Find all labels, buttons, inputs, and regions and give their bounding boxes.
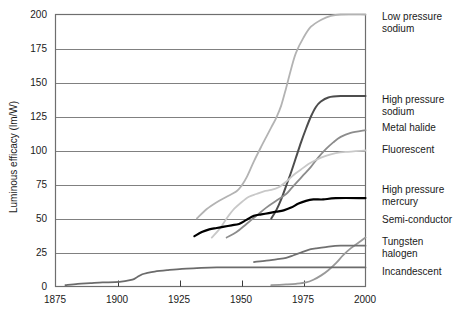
series-label-high-pressure-sodium-2: sodium: [382, 106, 414, 117]
luminous-efficacy-chart: Luminous efficacy (lm/W) 200 175 150 125…: [0, 0, 470, 316]
y-tick-label: 100: [30, 145, 47, 156]
x-tick-label: 1925: [168, 294, 191, 305]
series-label-metal-halide: Metal halide: [382, 122, 436, 133]
series-label-high-pressure-mercury: High pressure: [382, 184, 445, 195]
x-tick-label: 1975: [292, 294, 315, 305]
series-label-low-pressure-sodium-2: sodium: [382, 23, 414, 34]
x-tick-label: 1875: [44, 294, 67, 305]
y-tick-label: 125: [30, 111, 47, 122]
y-axis-title: Luminous efficacy (lm/W): [8, 101, 19, 213]
series-label-low-pressure-sodium: Low pressure: [382, 11, 442, 22]
series-label-fluorescent: Fluorescent: [382, 144, 434, 155]
series-label-incandescent: Incandescent: [382, 266, 442, 277]
series-label-semi-conductor: Semi-conductor: [382, 214, 453, 225]
y-tick-label: 0: [41, 281, 47, 292]
x-tick-label: 1950: [230, 294, 253, 305]
series-label-high-pressure-sodium: High pressure: [382, 94, 445, 105]
y-tick-label: 25: [36, 247, 48, 258]
x-tick-label: 2000: [354, 294, 377, 305]
y-tick-label: 175: [30, 43, 47, 54]
y-tick-label: 75: [36, 179, 48, 190]
y-tick-label: 200: [30, 9, 47, 20]
y-tick-label: 50: [36, 213, 48, 224]
x-tick-label: 1900: [106, 294, 129, 305]
series-label-tungsten-halogen-2: halogen: [382, 248, 418, 259]
series-label-high-pressure-mercury-2: mercury: [382, 196, 418, 207]
y-tick-label: 150: [30, 77, 47, 88]
series-label-tungsten-halogen: Tungsten: [382, 236, 423, 247]
